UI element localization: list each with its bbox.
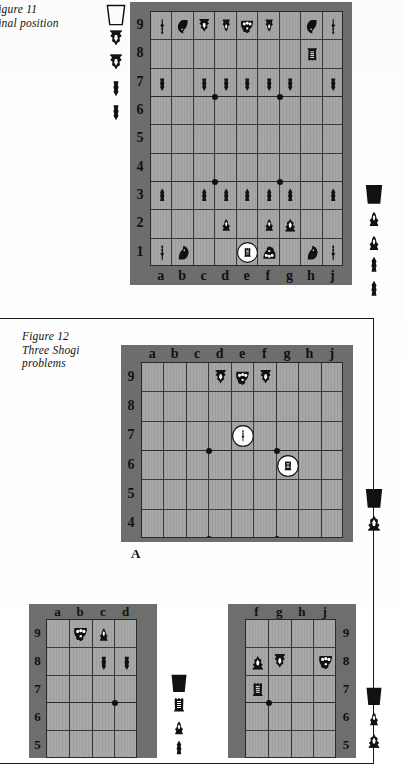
hand-piece-pawn[interactable] xyxy=(363,279,385,305)
board-cell xyxy=(237,12,258,40)
hand-piece-silver[interactable] xyxy=(363,231,385,257)
board-cell xyxy=(164,510,186,538)
board-cell xyxy=(299,422,321,451)
board-cell xyxy=(93,620,116,648)
rank-label-1: 1 xyxy=(130,238,150,266)
problem-a-label: A xyxy=(131,546,140,562)
file-label-e: e xyxy=(231,345,253,362)
board-cell xyxy=(172,12,193,40)
board-cell xyxy=(269,731,292,758)
hand-piece-pawn[interactable] xyxy=(363,255,385,281)
board-cell xyxy=(215,239,236,266)
board-cell xyxy=(299,392,321,421)
board-cell xyxy=(237,239,258,266)
file-label-j: j xyxy=(313,604,336,619)
board-cell xyxy=(280,40,301,68)
piece-stand-icon xyxy=(168,673,190,697)
file-label-c: c xyxy=(92,604,115,619)
board-cell xyxy=(93,676,116,704)
board-cell xyxy=(209,392,231,421)
board-cell xyxy=(322,480,343,509)
board-cell xyxy=(301,210,322,238)
board-cell xyxy=(254,422,276,451)
board-cell xyxy=(314,676,336,704)
hand-piece-gold[interactable] xyxy=(105,28,127,54)
board-cell xyxy=(258,40,279,68)
board-cell xyxy=(172,239,193,266)
board-pa-grid xyxy=(141,362,343,538)
board-cell xyxy=(115,648,137,676)
board-cell xyxy=(194,125,215,153)
board-cell xyxy=(93,648,116,676)
board-cell xyxy=(151,69,172,97)
board-cell xyxy=(292,676,315,704)
board-cell xyxy=(314,731,336,758)
board-cell xyxy=(246,676,269,704)
rank-label-8: 8 xyxy=(336,647,356,675)
hand-piece-silver[interactable] xyxy=(363,207,385,233)
file-label-g: g xyxy=(276,345,298,362)
board-cell xyxy=(194,97,215,125)
board-cell xyxy=(142,363,164,392)
board-cell xyxy=(194,154,215,182)
rank-label-5: 5 xyxy=(29,730,46,758)
board-f11-grid xyxy=(150,11,343,266)
hand-piece-gold[interactable] xyxy=(105,52,127,78)
board-cell xyxy=(277,510,299,538)
hand-piece-silver[interactable] xyxy=(364,708,384,732)
board-cell xyxy=(246,731,269,758)
file-label-e: e xyxy=(236,266,257,285)
board-cell xyxy=(254,510,276,538)
hand-piece-silver[interactable] xyxy=(169,717,189,741)
board-cell xyxy=(187,363,209,392)
figure-11-hand-black xyxy=(358,183,390,305)
board-cell xyxy=(187,422,209,451)
hand-piece-pawn[interactable] xyxy=(105,76,127,102)
board-cell xyxy=(237,69,258,97)
hand-piece-pawn[interactable] xyxy=(105,100,127,126)
board-cell xyxy=(258,69,279,97)
hand-piece-pawn[interactable] xyxy=(169,739,189,763)
hand-piece-rook[interactable] xyxy=(169,695,189,719)
file-label-h: h xyxy=(298,345,320,362)
board-cell xyxy=(301,69,322,97)
board-cell xyxy=(301,40,322,68)
file-label-d: d xyxy=(208,345,230,362)
board-cell xyxy=(237,210,258,238)
board-cell xyxy=(258,210,279,238)
problem-c-hand xyxy=(358,686,390,754)
board-cell xyxy=(237,154,258,182)
board-cell xyxy=(299,480,321,509)
board-cell xyxy=(314,648,336,676)
hand-piece-gold[interactable] xyxy=(363,511,385,537)
board-cell xyxy=(258,97,279,125)
hand-piece-gold[interactable] xyxy=(364,730,384,754)
file-label-j: j xyxy=(322,266,343,285)
board-cell xyxy=(93,703,116,731)
file-label-g: g xyxy=(279,266,300,285)
board-cell xyxy=(301,97,322,125)
board-cell xyxy=(47,731,70,758)
board-cell xyxy=(70,620,93,648)
rank-label-6: 6 xyxy=(336,702,356,730)
board-cell xyxy=(215,12,236,40)
board-cell xyxy=(254,451,276,480)
file-label-f: f xyxy=(257,266,278,285)
board-cell xyxy=(187,451,209,480)
board-cell xyxy=(172,182,193,210)
file-label-b: b xyxy=(163,345,185,362)
board-cell xyxy=(172,40,193,68)
file-label-c: c xyxy=(186,345,208,362)
board-cell xyxy=(323,210,343,238)
board-cell xyxy=(314,620,336,648)
board-cell xyxy=(172,69,193,97)
rank-label-5: 5 xyxy=(121,479,141,508)
rank-label-8: 8 xyxy=(29,647,46,675)
file-label-a: a xyxy=(141,345,163,362)
board-cell xyxy=(280,97,301,125)
file-label-b: b xyxy=(69,604,92,619)
board-cell xyxy=(277,392,299,421)
problem-a-board: abcdefghj987654 xyxy=(121,345,353,542)
board-cell xyxy=(299,510,321,538)
rank-label-3: 3 xyxy=(130,181,150,209)
